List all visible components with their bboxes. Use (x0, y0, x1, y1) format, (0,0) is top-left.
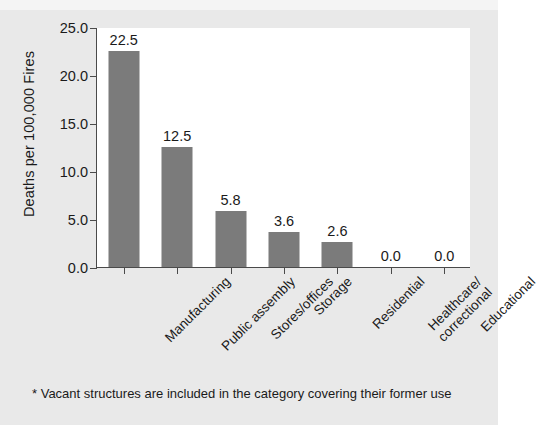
bar-group[interactable]: 12.5 (150, 28, 203, 267)
bar[interactable] (322, 242, 353, 267)
y-axis-tick-labels: 0.05.010.015.020.025.0 (40, 0, 88, 425)
bar-value-label: 3.6 (274, 213, 294, 229)
bar-value-label: 12.5 (163, 128, 191, 144)
x-category-label-line: Educational (478, 274, 538, 335)
footnote: * Vacant structures are included in the … (32, 386, 452, 401)
y-axis-title: Deaths per 100,000 Fires (16, 0, 42, 268)
y-tick-mark (90, 76, 97, 77)
bar[interactable] (268, 232, 299, 267)
bar-group[interactable]: 2.6 (311, 28, 364, 267)
y-tick-label: 20.0 (42, 68, 88, 84)
bar-value-label: 2.6 (327, 223, 347, 239)
plot-area: 22.512.55.83.62.60.00.0 (96, 28, 470, 268)
y-tick-label: 25.0 (42, 20, 88, 36)
bar-value-label: 0.0 (434, 248, 454, 264)
y-tick-label: 0.0 (42, 260, 88, 276)
bar-group[interactable]: 5.8 (204, 28, 257, 267)
x-category-label-line: Residential (370, 274, 428, 332)
x-category-label: Healthcare/correctional (424, 274, 495, 345)
bar-group[interactable]: 0.0 (418, 28, 471, 267)
bar-group[interactable]: 22.5 (97, 28, 150, 267)
x-category-label: Manufacturing (162, 274, 233, 345)
bar-value-label: 0.0 (381, 248, 401, 264)
y-tick-label: 5.0 (42, 212, 88, 228)
bar-group[interactable]: 0.0 (364, 28, 417, 267)
y-tick-mark (90, 124, 97, 125)
bar[interactable] (162, 147, 193, 267)
y-tick-mark (90, 220, 97, 221)
bar-value-label: 5.8 (220, 192, 240, 208)
bar-value-label: 22.5 (110, 32, 138, 48)
bar[interactable] (108, 51, 139, 267)
x-category-label-line: Manufacturing (162, 274, 233, 345)
x-category-label: Residential (370, 274, 428, 332)
x-axis-category-labels: ManufacturingPublic assemblyStores/offic… (96, 268, 470, 373)
y-tick-mark (90, 172, 97, 173)
x-category-label: Educational (478, 274, 538, 335)
y-tick-label: 15.0 (42, 116, 88, 132)
bar-group[interactable]: 3.6 (257, 28, 310, 267)
y-tick-label: 10.0 (42, 164, 88, 180)
bar[interactable] (215, 211, 246, 267)
y-tick-mark (90, 28, 97, 29)
